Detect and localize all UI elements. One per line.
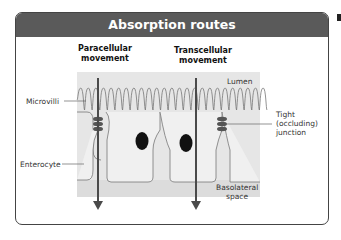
transcellular-heading: Transcellular movement (168, 46, 238, 66)
paracellular-arrowhead (93, 201, 103, 210)
heading-line: movement (70, 54, 140, 64)
paracellular-heading: Paracellular movement (70, 44, 140, 64)
tight-junction-right (217, 117, 227, 131)
label-line: junction (276, 128, 318, 137)
label-line: space (216, 192, 258, 201)
enterocyte-cell (106, 112, 160, 182)
heading-line: Paracellular (70, 44, 140, 54)
tight-junction-label: Tight (occluding) junction (276, 110, 318, 137)
microvilli-label: Microvilli (26, 97, 59, 106)
transcellular-arrowhead (191, 201, 201, 210)
label-line: (occluding) (276, 119, 318, 128)
nucleus (180, 134, 193, 152)
nucleus (136, 132, 149, 150)
lumen-label: Lumen (227, 77, 252, 86)
enterocyte-label: Enterocyte (20, 160, 61, 169)
heading-line: Transcellular (168, 46, 238, 56)
basolateral-label: Basolateral space (216, 183, 258, 201)
heading-line: movement (168, 56, 238, 66)
label-line: Tight (276, 110, 318, 119)
label-line: Basolateral (216, 183, 258, 192)
